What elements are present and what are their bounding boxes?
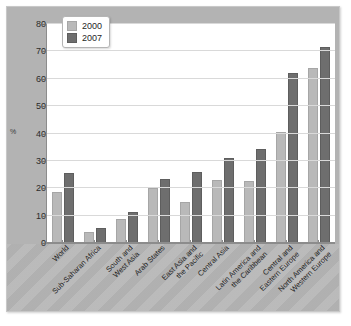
bar-2007-4 <box>192 172 203 243</box>
x-tick-label-4: East Asia andthe Pacific <box>161 244 205 288</box>
y-axis: 01020304050607080 <box>18 24 46 244</box>
bar-2007-7 <box>288 73 299 243</box>
gridline-10 <box>47 215 335 216</box>
bar-2007-1 <box>96 228 107 243</box>
bar-2007-2 <box>128 212 139 243</box>
legend-label-2000: 2000 <box>82 22 102 31</box>
bar-2000-0 <box>52 192 63 243</box>
legend-item-2007[interactable]: 2007 <box>67 32 102 44</box>
gridline-20 <box>47 187 335 188</box>
legend-swatch-2000-icon <box>67 21 77 31</box>
plot-area <box>46 24 335 244</box>
gridline-60 <box>47 78 335 79</box>
gridline-40 <box>47 133 335 134</box>
bar-2007-0 <box>64 173 75 243</box>
y-axis-title: % <box>10 128 16 135</box>
bar-2000-8 <box>308 68 319 243</box>
bar-chart: % 01020304050607080 2000 2007 WorldSub-S… <box>0 0 351 326</box>
bar-2007-5 <box>224 158 235 243</box>
gridline-70 <box>47 50 335 51</box>
bar-2000-5 <box>212 180 223 243</box>
legend-item-2000[interactable]: 2000 <box>67 20 102 32</box>
legend[interactable]: 2000 2007 <box>62 16 110 48</box>
bar-2007-6 <box>256 149 267 243</box>
x-axis-tick-labels: WorldSub-Saharan AfricaSouth andWest Asi… <box>46 244 334 314</box>
bar-2000-2 <box>116 219 127 243</box>
bar-2007-3 <box>160 179 171 243</box>
legend-swatch-2007-icon <box>67 33 77 43</box>
bar-2000-3 <box>148 188 159 243</box>
gridline-30 <box>47 160 335 161</box>
gridline-50 <box>47 105 335 106</box>
x-tick-label-0: World <box>51 244 71 264</box>
bars-layer <box>47 24 335 243</box>
bar-2000-6 <box>244 181 255 243</box>
legend-label-2007: 2007 <box>82 34 102 43</box>
bar-2000-4 <box>180 202 191 243</box>
